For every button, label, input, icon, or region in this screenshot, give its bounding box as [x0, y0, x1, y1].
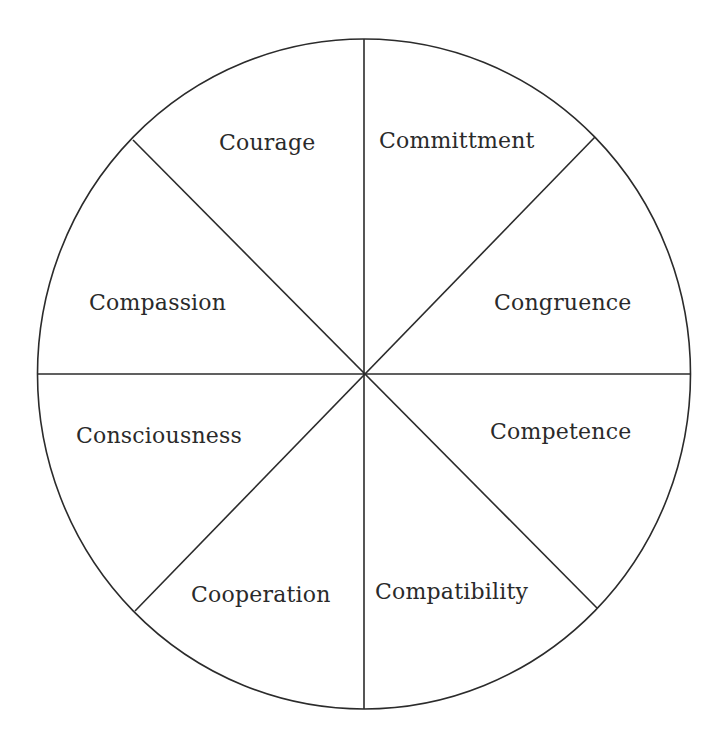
segment-label-competence: Competence [490, 419, 631, 444]
segment-label-courage: Courage [219, 130, 315, 155]
segment-label-compatibility: Compatibility [375, 579, 528, 604]
segment-label-consciousness: Consciousness [76, 423, 242, 448]
segment-label-compassion: Compassion [89, 290, 226, 315]
values-wheel-diagram: Courage Committment Compassion Congruenc… [0, 0, 722, 746]
segment-label-congruence: Congruence [494, 290, 632, 315]
segment-label-cooperation: Cooperation [191, 582, 331, 607]
segment-label-committment: Committment [379, 128, 535, 153]
